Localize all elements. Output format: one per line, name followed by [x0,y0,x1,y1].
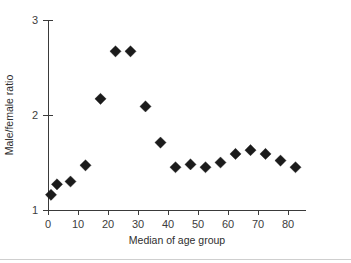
x-tick-label: 20 [102,218,114,230]
y-tick-label: 1 [32,204,38,216]
y-tick-label: 3 [32,14,38,26]
y-axis: 123 [32,14,53,216]
data-point [215,157,226,168]
data-point [155,137,166,148]
chart-figure: 123 01020304050607080 Median of age grou… [0,0,351,263]
data-point [290,162,301,173]
data-point [260,148,271,159]
y-tick-group: 123 [32,14,53,216]
data-point [170,162,181,173]
data-point [200,162,211,173]
x-tick-group: 01020304050607080 [45,210,294,230]
data-point [245,145,256,156]
x-axis: 01020304050607080 [45,210,306,230]
data-point [80,160,91,171]
data-point [125,46,136,57]
x-tick-label: 0 [45,218,51,230]
x-tick-label: 40 [162,218,174,230]
x-tick-label: 70 [252,218,264,230]
data-point [45,189,56,200]
x-tick-label: 30 [132,218,144,230]
data-point [95,93,106,104]
data-point [65,176,76,187]
y-tick-label: 2 [32,109,38,121]
x-axis-title: Median of age group [129,234,225,246]
data-point-group [45,46,301,201]
data-point [110,46,121,57]
x-tick-label: 50 [192,218,204,230]
data-point [140,101,151,112]
x-tick-label: 80 [282,218,294,230]
data-point [185,159,196,170]
data-point [230,148,241,159]
x-tick-label: 10 [72,218,84,230]
x-tick-label: 60 [222,218,234,230]
scatter-plot: 123 01020304050607080 Median of age grou… [0,0,351,263]
data-point [275,155,286,166]
data-point [51,179,62,190]
y-axis-title: Male/female ratio [3,75,15,156]
